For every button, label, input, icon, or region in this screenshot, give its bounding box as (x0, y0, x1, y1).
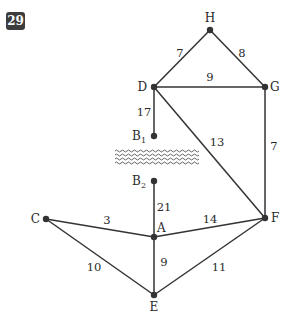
node-label-A: A (156, 221, 166, 235)
node-label-H: H (205, 11, 215, 25)
weighted-graph-diagram: 789171372131410911 HDGB1B2CAFE (0, 0, 291, 323)
edge-weight-D-B1: 17 (137, 105, 152, 119)
graph-nodes (43, 27, 268, 298)
edge-weight-C-E: 10 (87, 260, 102, 274)
edge-weight-G-F: 7 (270, 139, 277, 153)
river-wave-line (115, 150, 199, 152)
node-label-G: G (270, 80, 280, 94)
river-wave-line (115, 162, 199, 164)
edge-weight-A-F: 14 (203, 212, 218, 226)
river-wave-line (115, 154, 199, 156)
edge-C-A (46, 219, 154, 237)
node-label-D: D (137, 80, 147, 94)
edge-E-F (154, 218, 265, 295)
node-B2 (151, 178, 157, 184)
node-label-E: E (150, 300, 159, 314)
node-B1 (151, 133, 157, 139)
node-label-B1: B1 (132, 129, 146, 145)
node-G (262, 84, 268, 90)
river-wave-line (115, 158, 199, 160)
edge-weight-D-G: 9 (206, 70, 213, 84)
node-E (151, 292, 157, 298)
node-label-F: F (271, 211, 279, 225)
edge-weight-A-E: 9 (160, 255, 167, 269)
edge-weight-H-D: 7 (176, 46, 183, 60)
edge-weights: 789171372131410911 (87, 46, 278, 274)
edge-weight-H-G: 8 (238, 46, 245, 60)
edge-weight-B2-A: 21 (157, 200, 172, 214)
edge-weight-C-A: 3 (103, 213, 110, 227)
node-label-C: C (31, 212, 40, 226)
node-D (151, 84, 157, 90)
node-H (207, 27, 213, 33)
graph-edges (46, 30, 265, 295)
node-F (262, 215, 268, 221)
edge-C-E (46, 219, 154, 295)
edge-weight-D-F: 13 (210, 135, 225, 149)
edge-D-F (154, 87, 265, 218)
node-C (43, 216, 49, 222)
river-wavy-lines (115, 150, 199, 164)
node-label-B2: B2 (132, 174, 146, 190)
edge-weight-E-F: 11 (212, 260, 227, 274)
